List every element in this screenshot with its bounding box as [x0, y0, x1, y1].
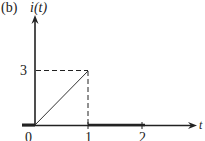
y-axis-label: i(t)	[30, 1, 47, 15]
y-tick-label-3: 3	[20, 64, 27, 78]
x-tick-label-1: 1	[85, 131, 92, 141]
x-axis-label: t	[199, 119, 202, 131]
panel-label: (b)	[1, 1, 17, 15]
x-tick-label-0: 0	[25, 131, 32, 141]
current-waveform-plot	[0, 0, 205, 141]
x-tick-label-2: 2	[139, 131, 146, 141]
ramp-line	[35, 71, 88, 125]
